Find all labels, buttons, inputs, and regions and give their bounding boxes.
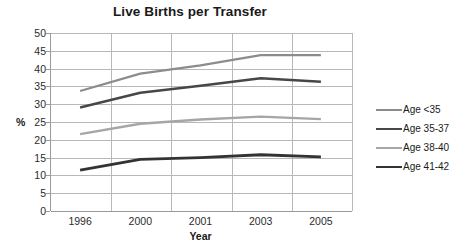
chart-legend: Age <35Age 35-37Age 38-40Age 41-42	[376, 100, 466, 176]
x-tick-label-2003: 2003	[231, 215, 291, 227]
gridline-y-25	[51, 122, 352, 123]
chart-title: Live Births per Transfer	[0, 4, 380, 19]
legend-item-age-38-40[interactable]: Age 38-40	[376, 138, 466, 157]
x-tick-label-2000: 2000	[110, 215, 170, 227]
y-tick-label-40: 40	[4, 64, 46, 75]
y-tick-label-20: 20	[4, 135, 46, 146]
y-tick-label-5: 5	[4, 188, 46, 199]
gridline-y-45	[51, 51, 352, 52]
y-tick-label-45: 45	[4, 46, 46, 57]
y-tick-label-30: 30	[4, 99, 46, 110]
legend-label: Age 35-37	[402, 123, 449, 134]
gridline-y-30	[51, 104, 352, 105]
legend-label: Age <35	[402, 104, 441, 115]
y-tick-label-0: 0	[4, 206, 46, 217]
legend-item-age-41-42[interactable]: Age 41-42	[376, 157, 466, 176]
legend-swatch-icon	[376, 128, 402, 130]
x-tick-label-2001: 2001	[171, 215, 231, 227]
legend-swatch-icon	[376, 109, 402, 111]
gridline-y-20	[51, 140, 352, 141]
gridline-y-5	[51, 193, 352, 194]
gridline-y-10	[51, 175, 352, 176]
gridline-x-3	[232, 33, 233, 211]
gridline-x-1	[111, 33, 112, 211]
y-axis-label: %	[16, 116, 25, 128]
legend-item-age-35[interactable]: Age <35	[376, 100, 466, 119]
y-tick-label-15: 15	[4, 153, 46, 164]
y-tick-label-35: 35	[4, 81, 46, 92]
gridline-y-0	[51, 211, 352, 212]
gridline-x-2	[171, 33, 172, 211]
legend-item-age-35-37[interactable]: Age 35-37	[376, 119, 466, 138]
legend-label: Age 38-40	[402, 142, 449, 153]
x-tick-label-1996: 1996	[50, 215, 110, 227]
gridline-y-40	[51, 69, 352, 70]
x-axis-label: Year	[50, 230, 351, 242]
legend-label: Age 41-42	[402, 161, 449, 172]
legend-swatch-icon	[376, 166, 402, 168]
gridline-y-50	[51, 33, 352, 34]
gridline-y-35	[51, 86, 352, 87]
gridline-x-4	[292, 33, 293, 211]
y-tick-mark-0	[46, 211, 50, 212]
gridline-y-15	[51, 158, 352, 159]
plot-area	[50, 33, 351, 211]
y-tick-label-10: 10	[4, 170, 46, 181]
legend-swatch-icon	[376, 147, 402, 149]
x-tick-label-2005: 2005	[291, 215, 351, 227]
y-tick-label-50: 50	[4, 28, 46, 39]
plot-right-border	[352, 33, 353, 211]
chart-screenshot: Live Births per Transfer 504540353025201…	[0, 0, 466, 252]
